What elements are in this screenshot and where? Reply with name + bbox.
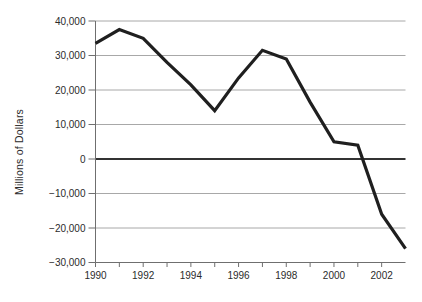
x-tick-label: 2002	[371, 270, 394, 281]
x-tick-label: 1994	[180, 270, 203, 281]
y-tick-label: 40,000	[55, 16, 86, 27]
x-tick-label: 1996	[227, 270, 250, 281]
y-tick-label: 30,000	[55, 50, 86, 61]
y-tick-label: 20,000	[55, 85, 86, 96]
x-tick-label: 1998	[275, 270, 298, 281]
y-tick-label: −10,000	[49, 188, 86, 199]
x-tick-label: 2000	[323, 270, 346, 281]
y-tick-label: 10,000	[55, 119, 86, 130]
data-line	[96, 30, 406, 249]
y-tick-label: −30,000	[49, 257, 86, 268]
x-tick-label: 1990	[84, 270, 107, 281]
y-tick-label: 0	[80, 154, 86, 165]
chart: Millions of Dollars 40,00030,00020,00010…	[0, 0, 422, 302]
y-tick-label: −20,000	[49, 223, 86, 234]
chart-canvas: 40,00030,00020,00010,0000−10,000−20,000−…	[0, 0, 422, 302]
x-tick-label: 1992	[132, 270, 155, 281]
